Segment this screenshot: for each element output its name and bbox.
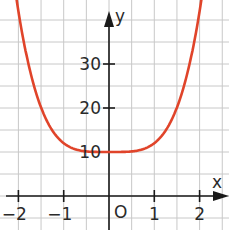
x-tick-label: 2 (194, 204, 205, 224)
y-tick-label: 10 (79, 142, 101, 162)
function-graph: −2−112102030Oxy (0, 0, 229, 230)
chart-canvas: −2−112102030Oxy (0, 0, 229, 230)
origin-label: O (114, 202, 127, 222)
axes (6, 11, 229, 230)
y-tick-label: 30 (79, 54, 101, 74)
x-tick-label: 1 (149, 204, 160, 224)
x-tick-label: −1 (47, 204, 72, 224)
tick-labels: −2−112102030Oxy (2, 6, 222, 224)
x-tick-label: −2 (2, 204, 27, 224)
x-axis-label: x (212, 172, 222, 192)
y-axis-label: y (115, 6, 125, 26)
y-tick-label: 20 (79, 98, 101, 118)
x-axis-arrow-icon (213, 191, 229, 201)
y-axis-arrow-icon (104, 11, 114, 27)
